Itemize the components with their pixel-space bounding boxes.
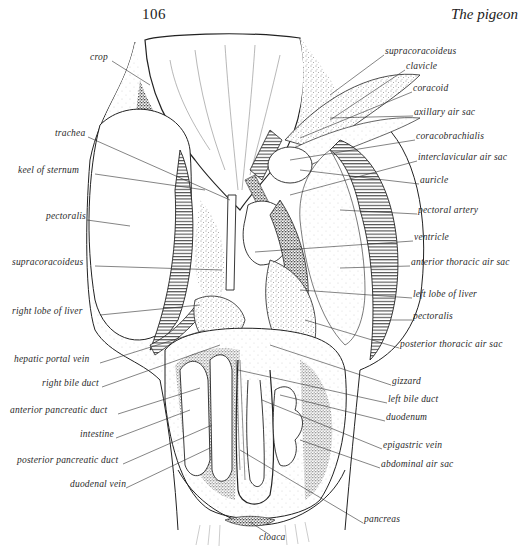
label-epigastric-vein: epigastric vein bbox=[383, 441, 442, 451]
label-left-bile-duct: left bile duct bbox=[388, 395, 438, 405]
label-interclavicular-air-sac: interclavicular air sac bbox=[418, 153, 507, 163]
label-duodenum: duodenum bbox=[386, 413, 427, 423]
label-coracobrachialis: coracobrachialis bbox=[416, 132, 484, 142]
label-pancreas: pancreas bbox=[364, 515, 400, 525]
label-left-lobe-of-liver: left lobe of liver bbox=[413, 290, 477, 300]
label-supracoracoideus-right: supracoracoideus bbox=[385, 47, 456, 57]
label-pectoral-artery: pectoral artery bbox=[418, 206, 478, 216]
label-trachea: trachea bbox=[55, 129, 85, 139]
label-intestine: intestine bbox=[80, 430, 114, 440]
label-posterior-pancreatic-duct: posterior pancreatic duct bbox=[17, 456, 118, 466]
label-duodenal-vein: duodenal vein bbox=[70, 480, 126, 490]
label-posterior-thoracic-air-sac: posterior thoracic air sac bbox=[400, 340, 503, 350]
label-anterior-pancreatic-duct: anterior pancreatic duct bbox=[10, 406, 107, 416]
label-keel-of-sternum: keel of sternum bbox=[18, 166, 79, 176]
label-anterior-thoracic-air-sac: anterior thoracic air sac bbox=[411, 258, 510, 268]
label-axillary-air-sac: axillary air sac bbox=[414, 108, 475, 118]
label-right-bile-duct: right bile duct bbox=[42, 379, 99, 389]
label-pectoralis-left: pectoralis bbox=[46, 212, 86, 222]
label-auricle: auricle bbox=[420, 176, 448, 186]
label-right-lobe-of-liver: right lobe of liver bbox=[12, 307, 83, 317]
label-clavicle: clavicle bbox=[406, 62, 437, 72]
label-abdominal-air-sac: abdominal air sac bbox=[381, 460, 454, 470]
label-cloaca: cloaca bbox=[259, 533, 286, 543]
label-coracoid: coracoid bbox=[413, 84, 448, 94]
label-pectoralis-right: pectoralis bbox=[413, 312, 453, 322]
label-ventricle: ventricle bbox=[414, 233, 449, 243]
label-supracoracoideus-left: supracoracoideus bbox=[12, 258, 83, 268]
label-gizzard: gizzard bbox=[392, 377, 421, 387]
label-crop: crop bbox=[90, 53, 108, 63]
label-hepatic-portal-vein: hepatic portal vein bbox=[14, 355, 90, 365]
